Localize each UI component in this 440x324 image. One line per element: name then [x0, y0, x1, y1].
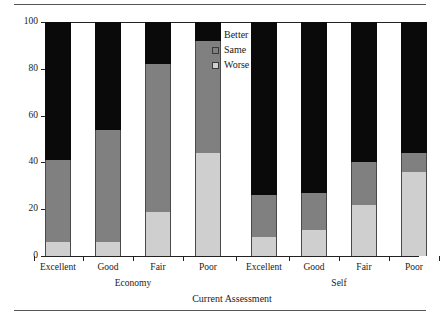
bar-stack[interactable] [401, 22, 427, 256]
bar-segment-better[interactable] [401, 22, 427, 153]
x-category-label: Excellent [246, 263, 282, 273]
bar-segment-same[interactable] [301, 193, 327, 230]
x-tick-mark [183, 256, 184, 261]
bar-stack[interactable] [95, 22, 121, 256]
bar-segment-better[interactable] [45, 22, 71, 160]
bar-segment-same[interactable] [95, 130, 121, 242]
y-tick-label: 0 [0, 251, 38, 261]
legend-label-better: Better [224, 30, 248, 40]
bar-segment-worse[interactable] [351, 205, 377, 256]
x-axis-line [46, 256, 419, 257]
legend-swatch-better-icon [212, 32, 219, 39]
y-tick-label: 80 [0, 64, 38, 74]
bar-segment-worse[interactable] [95, 242, 121, 256]
x-tick-mark [289, 256, 290, 261]
x-group-label: Self [331, 279, 346, 289]
x-tick-mark [34, 256, 35, 261]
bar-segment-better[interactable] [351, 22, 377, 162]
bar-segment-worse[interactable] [301, 230, 327, 256]
bar-stack[interactable] [301, 22, 327, 256]
legend-item-worse: Worse [212, 58, 249, 72]
legend-swatch-worse-icon [212, 62, 219, 69]
x-category-label: Fair [356, 263, 371, 273]
bar-segment-same[interactable] [401, 153, 427, 172]
legend-item-better: Better [212, 28, 249, 42]
bar-segment-better[interactable] [251, 22, 277, 195]
y-tick-label: 20 [0, 204, 38, 214]
bar-stack[interactable] [251, 22, 277, 256]
bar-segment-better[interactable] [145, 22, 171, 64]
legend-label-worse: Worse [224, 60, 249, 70]
y-tick-label: 100 [0, 17, 38, 27]
legend: Better Same Worse [212, 28, 249, 73]
legend-item-same: Same [212, 43, 249, 57]
x-tick-mark [133, 256, 134, 261]
y-tick-label: 60 [0, 111, 38, 121]
x-category-label: Good [303, 263, 324, 273]
bar-segment-worse[interactable] [45, 242, 71, 256]
bar-segment-worse[interactable] [145, 212, 171, 256]
bar-segment-same[interactable] [351, 162, 377, 204]
bar-segment-same[interactable] [145, 64, 171, 211]
x-axis-title: Current Assessment [192, 294, 272, 304]
top-rule [14, 4, 426, 5]
x-category-label: Poor [199, 263, 217, 273]
figure-container: Percentage 020406080100 ExcellentGoodFai… [0, 0, 440, 324]
bottom-rule [14, 310, 426, 311]
x-category-label: Excellent [40, 263, 76, 273]
bar-segment-worse[interactable] [251, 237, 277, 256]
bar-stack[interactable] [145, 22, 171, 256]
x-category-label: Good [97, 263, 118, 273]
bar-stack[interactable] [45, 22, 71, 256]
bar-segment-better[interactable] [95, 22, 121, 130]
y-tick-mark [41, 256, 46, 257]
y-tick-label: 40 [0, 158, 38, 168]
x-tick-mark [339, 256, 340, 261]
x-tick-mark [236, 256, 237, 261]
legend-label-same: Same [224, 45, 246, 55]
x-category-label: Poor [405, 263, 423, 273]
x-group-label: Economy [115, 279, 151, 289]
bar-segment-better[interactable] [301, 22, 327, 193]
bar-stack[interactable] [351, 22, 377, 256]
x-category-label: Fair [150, 263, 165, 273]
bar-segment-same[interactable] [45, 160, 71, 242]
bar-segment-same[interactable] [251, 195, 277, 237]
x-tick-mark [389, 256, 390, 261]
bar-segment-worse[interactable] [195, 153, 221, 256]
legend-swatch-same-icon [212, 47, 219, 54]
bar-segment-worse[interactable] [401, 172, 427, 256]
x-tick-mark [83, 256, 84, 261]
